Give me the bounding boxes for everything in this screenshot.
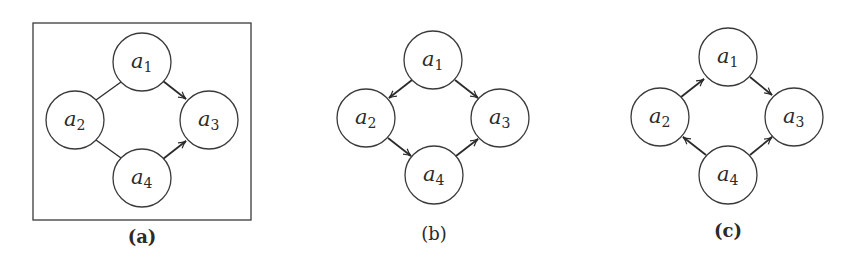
panel-b-caption: (b) [421,223,447,244]
node-a4: a4 [405,146,463,204]
edge-a1-to-a3 [750,77,772,95]
edge-a4-to-a3 [456,139,478,156]
edge-a1-a2 [96,82,121,100]
node-a2: a2 [46,91,104,149]
edge-a1-to-a2 [389,80,412,98]
edge-a1-to-a3 [163,81,186,99]
graph-figure: a1 a2 a3 a4 (a) a1 a2 a3 [0,0,851,271]
edge-a4-to-a2 [683,137,706,155]
node-a3: a3 [765,88,823,146]
edge-a4-to-a3 [163,141,186,159]
panel-c-caption: (c) [714,220,742,241]
node-a4: a4 [699,146,757,204]
edge-a1-to-a3 [455,80,478,98]
node-a2: a2 [631,88,689,146]
node-a3: a3 [471,89,529,147]
node-a1: a1 [113,33,171,91]
node-a3: a3 [180,91,238,149]
panel-a-caption: (a) [128,226,157,247]
node-a1: a1 [699,28,757,86]
node-a1: a1 [404,31,462,89]
edge-a4-to-a3 [750,137,772,155]
panel-a: a1 a2 a3 a4 (a) [33,23,251,247]
edge-a2-to-a4 [388,138,411,156]
panel-b: a1 a2 a3 a4 (b) [337,31,529,244]
panel-c: a1 a2 a3 a4 (c) [631,28,823,241]
edge-a2-a4 [96,140,121,158]
node-a2: a2 [337,89,395,147]
node-a4: a4 [113,149,171,207]
edge-a2-to-a1 [681,79,704,97]
